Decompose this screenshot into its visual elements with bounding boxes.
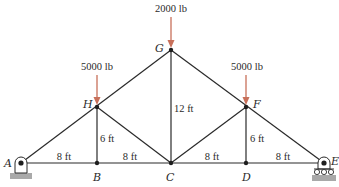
joint-C [169, 161, 173, 165]
joint-G [169, 48, 173, 52]
node-label-B: B [92, 171, 101, 184]
dim-label-GC: 12 ft [174, 103, 194, 114]
load-arrow-F [243, 75, 250, 105]
load-arrow-G [168, 17, 175, 48]
joint-B [95, 161, 99, 165]
truss-members [21, 50, 324, 163]
roller-wheel [328, 169, 333, 174]
pin-support-A [15, 157, 27, 173]
ground-roller-support [312, 175, 336, 181]
joint-D [244, 161, 248, 165]
node-label-F: F [252, 98, 261, 111]
node-label-A: A [3, 157, 12, 170]
node-label-D: D [241, 171, 251, 184]
roller-wheel [321, 169, 326, 174]
dim-label-CD: 8 ft [205, 151, 219, 162]
load-label-G: 2000 lb [155, 3, 187, 14]
dim-label-BC: 8 ft [123, 151, 137, 162]
joint-F [244, 105, 248, 109]
load-label-H: 5000 lb [81, 61, 113, 72]
dim-label-FD: 6 ft [250, 133, 264, 144]
load-label-F: 5000 lb [231, 61, 263, 72]
dim-label-AB: 8 ft [57, 151, 71, 162]
node-label-C: C [166, 171, 175, 184]
load-arrow-H [94, 75, 101, 105]
joint-H [95, 105, 99, 109]
node-label-G: G [155, 42, 164, 55]
node-label-H: H [82, 98, 93, 111]
ground-pin-support [10, 173, 32, 179]
roller-wheel [314, 169, 319, 174]
dim-label-HB: 6 ft [100, 133, 114, 144]
node-label-E: E [330, 155, 339, 168]
truss-diagram: 2000 lb 5000 lb 5000 lb A B C D E H G F … [0, 0, 339, 187]
dim-label-DE: 8 ft [276, 151, 290, 162]
